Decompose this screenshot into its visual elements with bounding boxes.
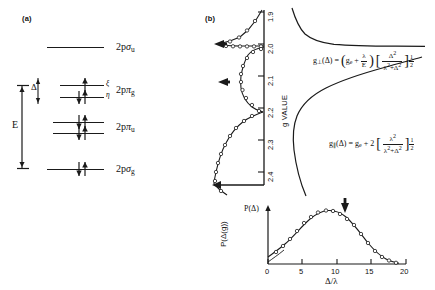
x-tick-10: 10 bbox=[331, 267, 339, 276]
term-label-sigma-g: 2pσg bbox=[116, 163, 135, 176]
x-tick-20: 20 bbox=[400, 267, 408, 276]
x-axis-title: Δ/λ bbox=[325, 276, 338, 286]
g-tick-1: 1.9 bbox=[266, 12, 275, 22]
p-delta-label: P(Δ) bbox=[244, 204, 259, 213]
arrow-marker-g-para bbox=[218, 78, 230, 86]
sublevel-eta-label: η bbox=[106, 90, 110, 99]
figure-root: (a) (b) bbox=[0, 0, 435, 290]
x-tick-5: 5 bbox=[299, 267, 303, 276]
g-tick-3: 2.1 bbox=[266, 76, 275, 86]
p-delta-g-label: P(Δ(g)) bbox=[219, 221, 228, 247]
energy-bracket-label: E bbox=[12, 119, 18, 130]
arrow-axis-left bbox=[212, 181, 264, 189]
formula-g-para-lhs: g∥(Δ) = ge + 2 bbox=[329, 139, 374, 148]
g-tick-6: 2.4 bbox=[266, 172, 275, 182]
term-label-pi-u: 2pπu bbox=[116, 121, 135, 134]
g-tick-2: 2.0 bbox=[266, 44, 275, 54]
g-axis-title: g VALUE bbox=[280, 95, 289, 127]
formula-g-perp: g⊥(Δ) = (ge + λE ) [ Δ2λ2+Δ2 ]12 bbox=[313, 50, 414, 72]
x-tick-15: 15 bbox=[365, 267, 373, 276]
panel-a-vectors bbox=[0, 0, 200, 200]
term-label-sigma-u: 2pσu bbox=[116, 41, 135, 54]
formula-g-perp-lhs: g⊥(Δ) = bbox=[313, 56, 339, 65]
arrow-marker-delta-peak bbox=[341, 198, 349, 213]
g-tick-4: 2.2 bbox=[266, 108, 275, 118]
term-label-pi-g: 2pπg bbox=[116, 84, 135, 97]
delta-bracket-label: Δ bbox=[31, 82, 37, 92]
sublevel-xi-label: ξ bbox=[106, 79, 109, 88]
formula-g-para: g∥(Δ) = ge + 2 [ λ2λ2+Δ2 ]12 bbox=[329, 133, 414, 155]
g-tick-5: 2.3 bbox=[266, 140, 275, 150]
x-tick-0: 0 bbox=[265, 267, 269, 276]
